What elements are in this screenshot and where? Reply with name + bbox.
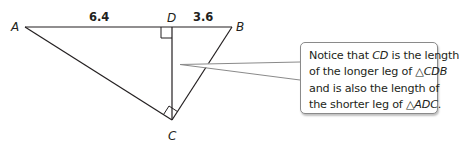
callout-line-4: the shorter leg of △ADC. [309, 97, 433, 113]
callout-text: of the longer leg of [309, 65, 415, 78]
vertex-label-D: D [167, 12, 176, 24]
callout-line-2: of the longer leg of △CDB [309, 64, 433, 80]
triangle-ref-ADC: ADC [414, 98, 437, 111]
measurement-AD: 6.4 [89, 12, 109, 24]
callout-line-3: and is also the length of [309, 81, 433, 97]
callout-text: is the length [388, 49, 459, 62]
callout-line-1: Notice that CD is the length [309, 48, 433, 64]
segment-ref-CD: CD [372, 49, 388, 62]
vertex-label-A: A [11, 21, 19, 33]
measurement-DB: 3.6 [193, 12, 213, 24]
right-angle-mark-D [161, 27, 172, 38]
segment-AC [25, 27, 172, 120]
right-angle-mark-C [164, 106, 178, 115]
triangle-symbol-icon: △ [415, 65, 423, 78]
vertex-label-B: B [236, 21, 244, 33]
callout-text: the shorter leg of [309, 98, 406, 111]
callout-text: and is also the length of [309, 82, 439, 95]
callout-text: . [438, 98, 441, 111]
callout-note: Notice that CD is the length of the long… [300, 42, 438, 114]
triangle-ref-CDB: CDB [424, 65, 448, 78]
vertex-label-C: C [168, 130, 176, 142]
segment-BC [172, 27, 232, 120]
callout-text: Notice that [309, 49, 372, 62]
